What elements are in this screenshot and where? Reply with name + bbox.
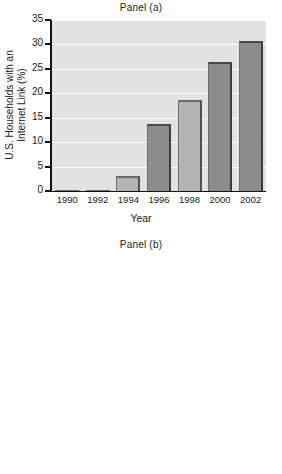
panel-b-title: Panel (b) [0, 239, 282, 250]
panel-a-plot-area [52, 20, 266, 191]
bar-2002 [239, 41, 263, 191]
panel-a-bars [52, 20, 266, 191]
y-tick-label: 5 [0, 161, 43, 171]
x-tick-label: 1990 [54, 194, 80, 205]
y-tick-label: 25 [0, 63, 43, 73]
bar-slot [207, 20, 233, 191]
x-tick-label: 1996 [146, 194, 172, 205]
x-tick-label: 1992 [85, 194, 111, 205]
panel-a-title: Panel (a) [0, 2, 282, 13]
y-tick-label: 10 [0, 136, 43, 146]
panel-a-x-axis-label: Year [0, 212, 282, 224]
y-tick-label: 20 [0, 87, 43, 97]
x-tick-label: 1998 [177, 194, 203, 205]
bar-2000 [208, 62, 232, 191]
bar-1992 [86, 190, 110, 192]
bar-slot [54, 20, 80, 191]
panel-a-x-tick-labels: 1990199219941996199820002002 [52, 194, 266, 205]
x-tick-label: 2002 [238, 194, 264, 205]
x-tick-label: 1994 [115, 194, 141, 205]
y-tick-label: 15 [0, 112, 43, 122]
bar-1990 [55, 190, 79, 192]
x-tick-label: 2000 [207, 194, 233, 205]
bar-1994 [116, 176, 140, 191]
bar-slot [146, 20, 172, 191]
y-tick-label: 30 [0, 38, 43, 48]
bar-slot [115, 20, 141, 191]
bar-slot [85, 20, 111, 191]
y-tick-label: 35 [0, 14, 43, 24]
bar-1998 [178, 100, 202, 191]
figure-two-panel-bar-chart: Panel (a) U.S. Households with an Intern… [0, 0, 282, 474]
panel-a: Panel (a) U.S. Households with an Intern… [0, 0, 282, 237]
bar-1996 [147, 124, 171, 191]
panel-b: Panel (b) Average Weekly Hours of Hookup… [0, 237, 282, 474]
bar-slot [177, 20, 203, 191]
y-tick-label: 0 [0, 185, 43, 195]
bar-slot [238, 20, 264, 191]
